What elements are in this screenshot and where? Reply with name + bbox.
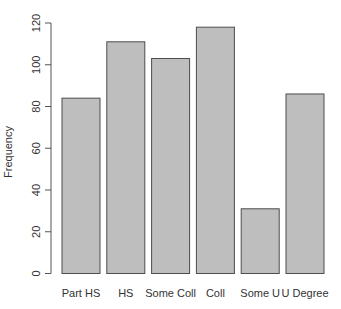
y-axis-label: Frequency: [2, 126, 14, 178]
y-tick-label: 100: [30, 56, 42, 74]
bar-u-degree: [286, 94, 324, 274]
y-tick-label: 0: [30, 270, 42, 276]
bar-part-hs: [62, 98, 100, 273]
y-tick-label: 60: [30, 142, 42, 154]
y-tick-label: 20: [30, 226, 42, 238]
bar-hs: [107, 42, 145, 274]
x-tick-label: HS: [118, 287, 133, 299]
bars-group: [62, 27, 324, 273]
x-tick-label: Part HS: [62, 287, 101, 299]
bar-coll: [196, 27, 234, 273]
y-tick-label: 40: [30, 184, 42, 196]
bar-chart: 020406080100120 Part HSHSSome CollCollSo…: [0, 0, 341, 309]
bar-some-u: [241, 209, 279, 274]
x-axis-labels: Part HSHSSome CollCollSome UU Degree: [62, 287, 329, 299]
bar-some-coll: [152, 58, 190, 273]
y-axis: 020406080100120: [30, 14, 51, 277]
x-tick-label: Some Coll: [145, 287, 196, 299]
x-tick-label: U Degree: [281, 287, 328, 299]
x-tick-label: Some U: [240, 287, 280, 299]
chart-canvas: 020406080100120 Part HSHSSome CollCollSo…: [0, 0, 341, 309]
x-tick-label: Coll: [206, 287, 225, 299]
y-tick-label: 80: [30, 100, 42, 112]
y-tick-label: 120: [30, 14, 42, 32]
